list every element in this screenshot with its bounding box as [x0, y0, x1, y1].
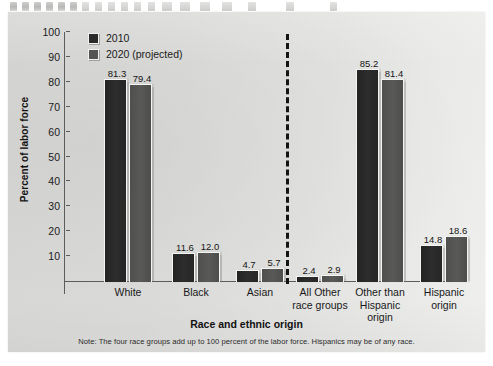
- y-tick-label: 80: [48, 76, 60, 88]
- category-line-1: Hispanic: [399, 286, 489, 299]
- bar-otherthanhispanic-2020: 81.4: [381, 79, 404, 283]
- bar-value-label: 5.7: [259, 257, 289, 268]
- y-tick-90: 90: [8, 51, 70, 63]
- bar-allother-2020: 2.9: [321, 275, 344, 282]
- bars: 81.3 79.4: [104, 32, 152, 282]
- y-tick-label: 40: [48, 175, 60, 187]
- y-tick-40: 40: [8, 175, 70, 187]
- bars: 4.7 5.7: [236, 32, 284, 282]
- bar-value-label: 12.0: [195, 241, 225, 252]
- bar-group-black: 11.6 12.0 Black: [172, 32, 220, 282]
- y-tick-label: 60: [48, 126, 60, 138]
- bar-groups: 81.3 79.4 White 11.6: [64, 32, 464, 282]
- bar-black-2020: 12.0: [197, 252, 220, 282]
- bars: 85.2 81.4: [356, 32, 404, 282]
- bar-hispanic-2010: 14.8: [420, 245, 443, 282]
- category-line-2: origin: [399, 299, 489, 312]
- y-tick-30: 30: [8, 200, 70, 212]
- bar-asian-2020: 5.7: [261, 268, 284, 282]
- photographed-book-page: 100 90 80 70 60: [0, 0, 493, 366]
- y-tick-50: 50: [8, 151, 70, 163]
- category-label-hispanic-origin: Hispanic origin: [399, 286, 489, 311]
- bar-otherthanhispanic-2010: 85.2: [356, 69, 379, 282]
- y-tick-80: 80: [8, 76, 70, 88]
- bar-white-2020: 79.4: [129, 84, 152, 283]
- bar-value-label: 79.4: [127, 73, 157, 84]
- bar-group-asian: 4.7 5.7 Asian: [236, 32, 284, 282]
- bar-value-label: 2.9: [319, 264, 349, 275]
- y-tick-label: 100: [42, 26, 60, 38]
- bars: 2.4 2.9: [296, 32, 344, 282]
- y-tick-20: 20: [8, 225, 70, 237]
- bar-allother-2010: 2.4: [296, 276, 319, 282]
- spiral-binding: [0, 0, 493, 14]
- y-tick-label: 70: [48, 101, 60, 113]
- bars: 14.8 18.6: [420, 32, 468, 282]
- x-axis-title: Race and ethnic origin: [8, 318, 485, 330]
- bar-group-hispanic-origin: 14.8 18.6 Hispanic origin: [420, 32, 468, 282]
- y-tick-10: 10: [8, 250, 70, 262]
- y-tick-label: 10: [48, 250, 60, 262]
- bar-hispanic-2020: 18.6: [445, 236, 468, 283]
- y-axis-title: Percent of labor force: [19, 60, 30, 240]
- bar-asian-2010: 4.7: [236, 270, 259, 282]
- bar-group-white: 81.3 79.4 White: [104, 32, 152, 282]
- bar-value-label: 18.6: [443, 225, 473, 236]
- y-tick-label: 90: [48, 51, 60, 63]
- bar-group-other-than-hispanic-origin: 85.2 81.4 Other than Hispanic origin: [356, 32, 404, 282]
- bar-chart: 100 90 80 70 60: [8, 12, 485, 352]
- y-tick-60: 60: [8, 126, 70, 138]
- y-tick-70: 70: [8, 101, 70, 113]
- bar-value-label: 81.4: [379, 68, 409, 79]
- y-tick-label: 20: [48, 225, 60, 237]
- bars: 11.6 12.0: [172, 32, 220, 282]
- chart-note: Note: The four race groups add up to 100…: [8, 337, 485, 346]
- dashed-divider-line: [286, 34, 289, 284]
- bar-black-2010: 11.6: [172, 253, 195, 282]
- bar-white-2010: 81.3: [104, 79, 127, 282]
- y-tick-100: 100: [8, 26, 70, 38]
- paper-sheet: 100 90 80 70 60: [8, 12, 485, 352]
- y-tick-label: 50: [48, 151, 60, 163]
- y-tick-label: 30: [48, 200, 60, 212]
- bar-value-label: 14.8: [418, 234, 448, 245]
- bar-group-all-other-race-groups: 2.4 2.9 All Other race groups: [296, 32, 344, 282]
